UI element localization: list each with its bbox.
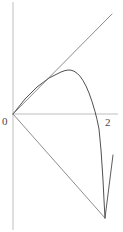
- series-curve: [13, 70, 105, 218]
- series-lower-secant-line: [13, 114, 105, 218]
- x-tick-label-2: 2: [105, 117, 111, 128]
- x-tick-label-0: 0: [2, 116, 8, 127]
- plot-figure: 0 2: [0, 0, 123, 232]
- series-right-steep-segment: [105, 155, 113, 218]
- series-group: [13, 14, 113, 218]
- series-upper-tangent-line: [13, 14, 112, 114]
- axes-group: [13, 2, 118, 230]
